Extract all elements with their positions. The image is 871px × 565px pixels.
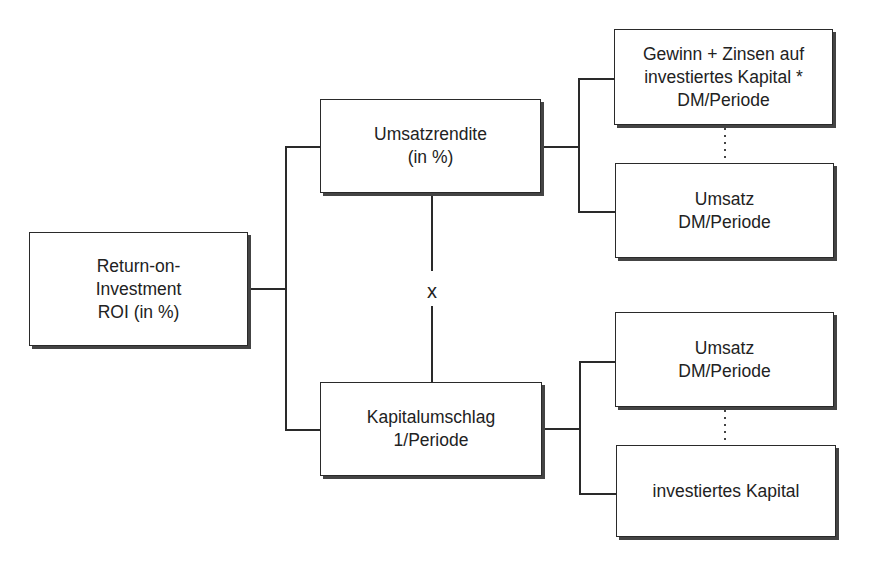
connector-upper-bracket [578, 78, 580, 212]
connector-lower-bracket [579, 361, 581, 494]
roi-box: Return-on- Investment ROI (in %) [29, 232, 248, 346]
umsatz-lower-box: Umsatz DM/Periode [615, 312, 834, 407]
connector-trunk [285, 146, 287, 430]
umsatz-lower-line-1: Umsatz [695, 337, 754, 360]
roi-line-1: Return-on- [97, 255, 181, 278]
umsatzrendite-box: Umsatzrendite (in %) [320, 99, 541, 193]
connector-bracket-to-umsatz-1 [578, 211, 615, 213]
connector-kapitalumschlag-to-bracket [542, 428, 579, 430]
investiertes-kapital-line-1: investiertes Kapital [653, 480, 800, 503]
connector-roi-to-trunk [248, 288, 286, 290]
roi-line-2: Investment [96, 278, 182, 301]
division-dotted-line-upper [724, 128, 726, 163]
division-dotted-line-lower [724, 410, 726, 445]
connector-trunk-to-kapitalumschlag [285, 429, 321, 431]
connector-bracket-to-gewinn [578, 78, 615, 80]
gewinn-zinsen-box: Gewinn + Zinsen auf investiertes Kapital… [614, 29, 833, 125]
kapitalumschlag-line-1: Kapitalumschlag [367, 406, 495, 429]
investiertes-kapital-box: investiertes Kapital [616, 445, 836, 537]
umsatz-upper-line-2: DM/Periode [678, 211, 770, 234]
umsatz-upper-line-1: Umsatz [695, 188, 754, 211]
roi-line-3: ROI (in %) [98, 301, 180, 324]
gewinn-zinsen-line-3: DM/Periode [677, 89, 769, 112]
connector-umsatzrendite-to-bracket [541, 146, 579, 148]
umsatzrendite-line-2: (in %) [408, 146, 454, 169]
umsatzrendite-line-1: Umsatzrendite [374, 123, 487, 146]
connector-multiply-lower [431, 306, 433, 382]
connector-bracket-to-investiertes-kapital [579, 493, 616, 495]
kapitalumschlag-box: Kapitalumschlag 1/Periode [320, 382, 542, 476]
connector-multiply-upper [431, 193, 433, 271]
umsatz-lower-line-2: DM/Periode [678, 360, 770, 383]
umsatz-upper-box: Umsatz DM/Periode [615, 163, 834, 258]
connector-bracket-to-umsatz-2 [579, 361, 616, 363]
multiply-operator: x [422, 281, 442, 301]
kapitalumschlag-line-2: 1/Periode [394, 429, 469, 452]
connector-trunk-to-umsatzrendite [285, 146, 321, 148]
gewinn-zinsen-line-2: investiertes Kapital * [644, 66, 803, 89]
gewinn-zinsen-line-1: Gewinn + Zinsen auf [643, 43, 804, 66]
